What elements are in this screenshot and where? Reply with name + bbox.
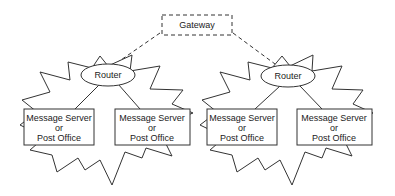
message-server-node: Message Server or Post Office	[207, 109, 277, 145]
server-label-line1: Message Server	[119, 113, 185, 123]
message-server-node: Message Server or Post Office	[297, 109, 372, 145]
message-server-node: Message Server or Post Office	[24, 109, 94, 145]
server-label-line3: Post Office	[220, 133, 264, 143]
server-label-line3: Post Office	[312, 133, 356, 143]
gateway-link-right	[233, 33, 275, 64]
gateway-label: Gateway	[179, 20, 215, 30]
router-node-right: Router	[261, 65, 315, 87]
server-label-line2: or	[238, 123, 246, 133]
gateway-link-left	[118, 33, 160, 62]
server-label-line1: Message Server	[209, 113, 275, 123]
server-label-line1: Message Server	[301, 113, 367, 123]
router-label: Router	[274, 71, 301, 81]
network-diagram: Gateway Router Message Server or Post Of…	[0, 0, 395, 196]
message-server-node: Message Server or Post Office	[115, 109, 190, 145]
server-label-line3: Post Office	[130, 133, 174, 143]
server-label-line2: or	[330, 123, 338, 133]
server-label-line3: Post Office	[37, 133, 81, 143]
router-node-left: Router	[81, 64, 135, 86]
gateway-node: Gateway	[162, 15, 232, 35]
server-label-line2: or	[148, 123, 156, 133]
server-label-line2: or	[55, 123, 63, 133]
router-label: Router	[94, 70, 121, 80]
server-label-line1: Message Server	[26, 113, 92, 123]
